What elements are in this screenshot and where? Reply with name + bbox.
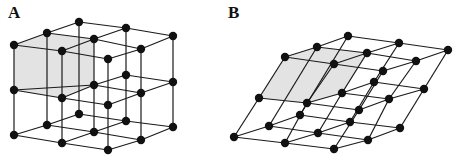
lattice-edge (94, 75, 126, 85)
lattice-node (137, 136, 145, 144)
lattice-edge (374, 43, 399, 82)
lattice-node (90, 81, 98, 89)
lattice-node (104, 101, 112, 109)
lattice-edge (62, 132, 94, 143)
lattice-node (385, 95, 393, 103)
lattice-edge (108, 49, 141, 59)
lattice-node (281, 139, 289, 147)
lattice-node (296, 111, 304, 119)
lattice-node (10, 41, 18, 49)
lattice-node (303, 99, 311, 107)
lattice-node (75, 110, 83, 118)
lattice-node (395, 39, 403, 47)
lattice-node (370, 78, 378, 86)
lattice-node (58, 94, 66, 102)
lattice-node (313, 43, 321, 51)
lattice-node (330, 60, 338, 68)
lattice-node (137, 45, 145, 53)
lattice-edge (62, 143, 108, 150)
lattice-edge (14, 135, 62, 143)
lattice-node (314, 129, 322, 137)
lattice-edge (94, 121, 126, 132)
lattice-node (137, 89, 145, 97)
lattice-edge (389, 61, 416, 99)
lattice-edge (126, 75, 173, 82)
lattice-edge (108, 140, 141, 150)
lattice-edge (317, 36, 348, 47)
lattice-edge (79, 114, 126, 121)
lattice-node (75, 18, 83, 26)
lattice-edge (359, 71, 383, 110)
lattice-edge (350, 82, 374, 122)
lattice-node (444, 46, 452, 54)
lattice-edge (126, 121, 173, 127)
lattice-edge (47, 22, 79, 33)
lattice-node (169, 123, 177, 131)
lattice-node (43, 29, 51, 37)
lattice-node (122, 117, 130, 125)
lattice-edge (94, 85, 141, 93)
lattice-node (265, 122, 273, 130)
lattice-edge (94, 132, 141, 140)
cubic-lattice-panel (10, 18, 177, 154)
lattice-edge (383, 61, 416, 71)
lattice-node (364, 136, 372, 144)
lattice-edge (62, 98, 108, 105)
sheared-lattice-panel (230, 32, 452, 153)
lattice-node (281, 53, 289, 61)
lattice-node (58, 47, 66, 55)
lattice-edge (234, 126, 269, 137)
lattice-node (104, 55, 112, 63)
lattice-node (330, 145, 338, 153)
lattice-edge (416, 50, 448, 61)
lattice-edge (79, 22, 126, 28)
lattice-diagram (0, 0, 458, 163)
lattice-node (412, 57, 420, 65)
lattice-node (355, 106, 363, 114)
lattice-node (58, 139, 66, 147)
lattice-edge (348, 36, 399, 43)
lattice-edge (234, 137, 285, 143)
lattice-edge (141, 82, 173, 93)
lattice-node (230, 133, 238, 141)
lattice-edge (14, 125, 47, 135)
lattice-node (43, 121, 51, 129)
lattice-node (104, 146, 112, 154)
lattice-node (363, 49, 371, 57)
lattice-edge (234, 98, 259, 137)
lattice-edge (141, 127, 173, 140)
lattice-node (420, 85, 428, 93)
lattice-node (255, 94, 263, 102)
lattice-node (396, 124, 404, 132)
lattice-node (10, 131, 18, 139)
lattice-node (379, 67, 387, 75)
lattice-node (10, 86, 18, 94)
lattice-node (90, 128, 98, 136)
lattice-edge (285, 143, 334, 149)
lattice-node (169, 32, 177, 40)
lattice-edge (424, 50, 448, 89)
lattice-edge (126, 28, 173, 36)
lattice-node (90, 35, 98, 43)
lattice-node (344, 32, 352, 40)
lattice-edge (108, 93, 141, 105)
lattice-node (169, 78, 177, 86)
lattice-node (346, 118, 354, 126)
lattice-node (338, 89, 346, 97)
lattice-edge (47, 114, 79, 125)
lattice-edge (94, 28, 126, 39)
lattice-edge (94, 39, 141, 49)
lattice-edge (399, 43, 448, 50)
lattice-node (122, 24, 130, 32)
lattice-node (122, 71, 130, 79)
lattice-edge (141, 36, 173, 49)
lattice-edge (47, 125, 94, 132)
